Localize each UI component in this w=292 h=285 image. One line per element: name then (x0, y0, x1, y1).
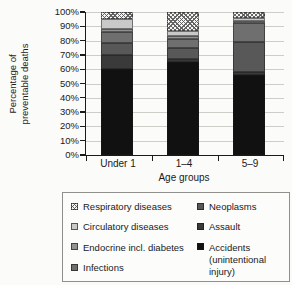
y-tick-label: 20% (60, 122, 79, 132)
plot-area (85, 12, 284, 156)
bar-segment (167, 12, 199, 31)
y-tick-mark (80, 97, 85, 98)
y-tick-mark (80, 140, 85, 141)
y-tick-label: 30% (60, 107, 79, 117)
y-tick-mark (80, 126, 85, 127)
y-tick-mark (80, 83, 85, 84)
legend-label: Respiratory diseases (83, 201, 172, 213)
legend-swatch-icon (71, 203, 78, 210)
legend-swatch-icon (71, 264, 78, 271)
legend-item: Assault (197, 221, 287, 233)
y-tick-label: 80% (60, 36, 79, 46)
legend-label: Infections (83, 262, 124, 274)
legend-item: Accidents (unintentional injury) (197, 242, 287, 278)
stacked-bar-3 (233, 12, 265, 155)
y-axis-label-line2: preventable deaths (19, 43, 31, 124)
y-axis-tick-labels: 100%90%80%70%60%50%40%30%20%10%0% (38, 12, 82, 155)
stacked-bar-chart-figure: Percentage of preventable deaths 100%90%… (0, 0, 292, 285)
y-axis-label-line1: Percentage of (7, 43, 19, 124)
y-tick-mark (80, 11, 85, 12)
y-tick-mark (80, 111, 85, 112)
legend-swatch-icon (71, 223, 78, 230)
legend-swatch-icon (197, 243, 204, 250)
x-tick-label: 5–9 (217, 159, 283, 169)
bar-segment (233, 75, 265, 155)
legend-label: Accidents (unintentional injury) (209, 242, 287, 278)
legend-label: Circulatory diseases (83, 221, 169, 233)
y-tick-mark (80, 54, 85, 55)
bar-segment (101, 32, 133, 43)
x-axis-tick-labels: Under 11–45–9 (85, 159, 283, 171)
y-tick-mark (80, 40, 85, 41)
x-axis-title: Age groups (85, 173, 283, 183)
legend-swatch-icon (197, 223, 204, 230)
legend-label: Endocrine incl. diabetes (83, 242, 184, 254)
y-tick-label: 50% (60, 79, 79, 89)
bar-segment (101, 19, 133, 29)
y-tick-mark (80, 69, 85, 70)
x-tick-label: 1–4 (151, 159, 217, 169)
y-tick-label: 100% (55, 7, 79, 17)
legend-item: Infections (71, 262, 197, 274)
legend-item: Endocrine incl. diabetes (71, 242, 197, 254)
legend-label: Assault (209, 221, 240, 233)
legend-column-1: Respiratory diseasesCirculatory diseases… (71, 201, 197, 279)
bar-segment (233, 42, 265, 72)
stacked-bar-2 (167, 12, 199, 155)
bar-segment (101, 12, 133, 19)
y-tick-label: 0% (65, 150, 79, 160)
y-tick-label: 60% (60, 64, 79, 74)
legend-column-2: NeoplasmsAssaultAccidents (unintentional… (197, 201, 287, 279)
y-tick-mark (80, 26, 85, 27)
y-tick-label: 10% (60, 136, 79, 146)
y-tick-label: 40% (60, 93, 79, 103)
legend-item: Neoplasms (197, 201, 287, 213)
legend-item: Respiratory diseases (71, 201, 197, 213)
y-tick-mark (80, 154, 85, 155)
bar-segment (101, 55, 133, 69)
bar-segment (101, 43, 133, 54)
y-tick-label: 70% (60, 50, 79, 60)
legend-swatch-icon (71, 243, 78, 250)
legend-item: Circulatory diseases (71, 221, 197, 233)
bar-segment (101, 69, 133, 155)
y-tick-label: 90% (60, 22, 79, 32)
x-tick-label: Under 1 (85, 159, 151, 169)
legend-swatch-icon (197, 203, 204, 210)
bar-segment (233, 23, 265, 42)
legend-label: Neoplasms (209, 201, 257, 213)
legend-box: Respiratory diseasesCirculatory diseases… (62, 192, 290, 282)
bar-segment (167, 62, 199, 155)
bar-segment (167, 39, 199, 48)
y-axis-label: Percentage of preventable deaths (0, 12, 38, 155)
bar-segment (167, 48, 199, 59)
stacked-bar-1 (101, 12, 133, 155)
